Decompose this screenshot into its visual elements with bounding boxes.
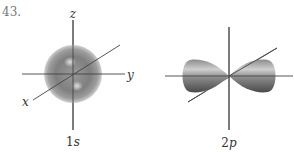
y-axis-label: y (126, 68, 134, 82)
diagonal-axis-front-lower (188, 91, 206, 102)
sphere-highlight (64, 57, 76, 67)
orbital-1s-figure: z y x 1s (22, 7, 134, 149)
caption-2p: 2p (221, 136, 237, 150)
z-axis-label: z (69, 7, 77, 21)
caption-1s: 1s (66, 135, 80, 149)
orbital-2p-figure: 2p (165, 27, 293, 150)
orbital-diagrams: z y x 1s 2p (0, 0, 294, 152)
x-axis-label: x (22, 95, 29, 109)
